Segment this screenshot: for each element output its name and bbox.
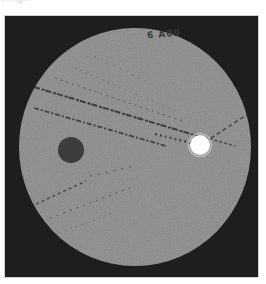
bright-insert [190, 135, 210, 155]
ct-phantom-image [5, 16, 259, 278]
phantom-body [19, 28, 251, 266]
ct-scan-frame: 6 A09 [4, 15, 259, 278]
truncated-caption: ·····ᴅ·· [2, 0, 30, 5]
dark-insert [58, 137, 84, 163]
